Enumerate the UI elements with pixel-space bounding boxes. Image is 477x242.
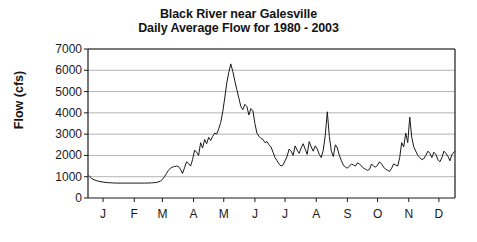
axis-frame bbox=[88, 49, 455, 198]
x-axis-ticks bbox=[103, 198, 439, 202]
flow-chart-figure: Black River near Galesville Daily Averag… bbox=[0, 0, 477, 242]
flow-series-line bbox=[89, 64, 455, 183]
plot-area bbox=[0, 0, 477, 242]
